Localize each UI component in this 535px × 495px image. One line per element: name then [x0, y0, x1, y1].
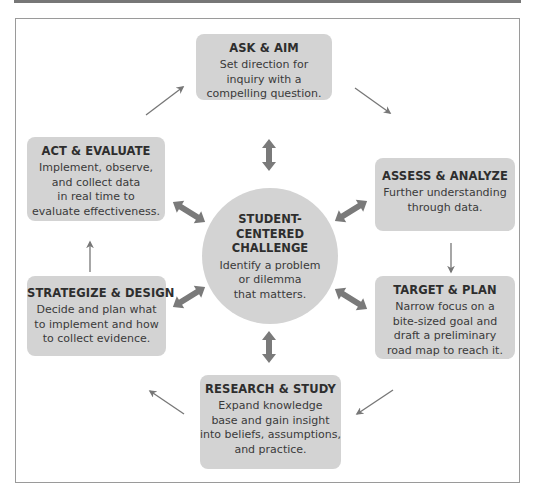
center-desc: Identify a problem or dilemma that matte…: [202, 259, 338, 303]
step-title: ACT & EVALUATE: [27, 144, 165, 159]
step-ask-aim: ASK & AIM Set direction for inquiry with…: [196, 34, 332, 100]
step-research-study: RESEARCH & STUDY Expand knowledge base a…: [200, 375, 341, 469]
step-desc: Narrow focus on a bite-sized goal and dr…: [375, 300, 515, 358]
step-strategize-design: STRATEGIZE & DESIGN Decide and plan what…: [27, 276, 166, 356]
step-desc: Implement, observe, and collect data in …: [27, 161, 165, 219]
step-title: STRATEGIZE & DESIGN: [27, 286, 166, 301]
step-title: ASK & AIM: [196, 41, 332, 56]
step-title: RESEARCH & STUDY: [200, 382, 341, 397]
step-desc: Further understanding through data.: [375, 186, 515, 215]
center-challenge: STUDENT- CENTERED CHALLENGE Identify a p…: [202, 188, 338, 324]
step-title: ASSESS & ANALYZE: [375, 169, 515, 184]
step-target-plan: TARGET & PLAN Narrow focus on a bite-siz…: [375, 276, 515, 359]
step-desc: Expand knowledge base and gain insight i…: [200, 399, 341, 457]
step-desc: Set direction for inquiry with a compell…: [196, 58, 332, 102]
top-rule: [14, 0, 521, 3]
step-act-evaluate: ACT & EVALUATE Implement, observe, and c…: [27, 137, 165, 221]
step-desc: Decide and plan what to implement and ho…: [27, 303, 166, 347]
step-title: TARGET & PLAN: [375, 283, 515, 298]
step-assess-analyze: ASSESS & ANALYZE Further understanding t…: [375, 158, 515, 231]
center-title: STUDENT- CENTERED CHALLENGE: [202, 212, 338, 256]
